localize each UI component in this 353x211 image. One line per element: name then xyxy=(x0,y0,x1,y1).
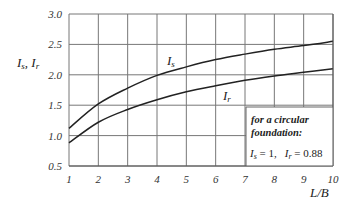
x-tick-label: 8 xyxy=(272,173,278,185)
series-label-is: Is xyxy=(166,53,175,69)
chart: 123456789100.51.01.52.02.53.0 for a circ… xyxy=(0,0,353,211)
x-tick-label: 2 xyxy=(96,173,102,185)
annotation-line2: foundation: xyxy=(251,127,302,138)
y-tick-label: 1.0 xyxy=(48,130,62,142)
x-tick-label: 3 xyxy=(124,173,131,185)
x-tick-label: 4 xyxy=(154,173,160,185)
x-tick-label: 6 xyxy=(213,173,219,185)
annotation-line1: for a circular xyxy=(251,114,310,125)
x-axis-label: L/B xyxy=(309,185,329,200)
x-tick-label: 5 xyxy=(184,173,190,185)
y-axis-label: Is, Ir xyxy=(16,55,40,71)
y-tick-label: 2.5 xyxy=(48,38,62,50)
x-tick-label: 9 xyxy=(301,173,307,185)
x-tick-label: 1 xyxy=(66,173,72,185)
y-tick-label: 0.5 xyxy=(48,160,62,172)
y-tick-label: 1.5 xyxy=(48,99,62,111)
series-label-ir: Ir xyxy=(222,88,231,104)
y-tick-label: 3.0 xyxy=(47,8,62,20)
x-tick-label: 10 xyxy=(328,173,340,185)
annotation-values: Is = 1,Ir = 0.88 xyxy=(249,147,323,161)
y-tick-label: 2.0 xyxy=(48,69,62,81)
x-tick-label: 7 xyxy=(242,173,248,185)
